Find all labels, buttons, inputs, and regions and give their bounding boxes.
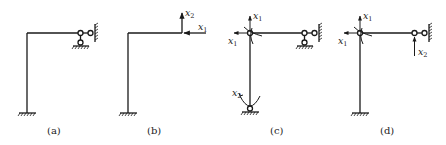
panel-d bbox=[344, 16, 432, 116]
structural-diagram: (a) x2 x1 (b) bbox=[0, 0, 446, 145]
ground-support-icon bbox=[72, 46, 89, 49]
caption-a: (a) bbox=[47, 125, 61, 136]
caption-d: (d) bbox=[380, 125, 394, 136]
wall-support-icon bbox=[319, 23, 322, 42]
ground-support-icon bbox=[296, 46, 313, 49]
moment-pair-icon bbox=[244, 27, 262, 36]
wall-support-icon bbox=[95, 23, 98, 42]
caption-c: (c) bbox=[270, 125, 284, 136]
label-x1-up: x1 bbox=[253, 10, 263, 23]
pin-icon bbox=[78, 31, 83, 36]
panel-b bbox=[119, 13, 206, 116]
wall-support-icon bbox=[429, 23, 432, 42]
label-x1: x1 bbox=[198, 21, 208, 34]
fixed-support-icon bbox=[18, 113, 36, 116]
label-x2: x2 bbox=[232, 87, 242, 100]
label-x1-left: x1 bbox=[338, 35, 348, 48]
panel-a bbox=[18, 23, 98, 116]
label-x2: x2 bbox=[185, 7, 195, 20]
moment-pair-icon bbox=[354, 27, 372, 36]
panel-c bbox=[234, 16, 322, 115]
fixed-support-icon bbox=[241, 112, 259, 115]
caption-b: (b) bbox=[147, 125, 161, 136]
fixed-support-icon bbox=[351, 113, 369, 116]
base-hinge-icon bbox=[248, 106, 253, 111]
fixed-support-icon bbox=[119, 113, 137, 116]
label-x1-up: x1 bbox=[363, 10, 373, 23]
label-x2: x2 bbox=[418, 46, 428, 59]
label-x1-left: x1 bbox=[228, 35, 238, 48]
